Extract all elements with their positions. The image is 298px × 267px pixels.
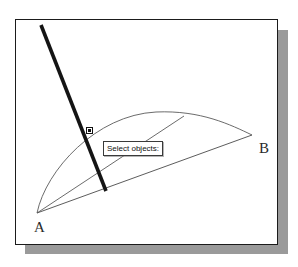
pickbox-cursor-icon (86, 127, 93, 134)
drawing-frame: A B Select objects: (15, 19, 278, 245)
arc-a-to-b[interactable] (37, 112, 252, 213)
vertex-label-b: B (259, 141, 269, 156)
drawing-screenshot: A B Select objects: (0, 0, 298, 267)
vertex-label-a: A (34, 220, 45, 235)
command-prompt-tooltip: Select objects: (103, 141, 163, 156)
drawing-canvas[interactable] (16, 20, 277, 244)
pickbox-center-dot (88, 129, 91, 132)
selected-section-line[interactable] (41, 25, 106, 191)
upper-line-from-a[interactable] (37, 116, 184, 213)
